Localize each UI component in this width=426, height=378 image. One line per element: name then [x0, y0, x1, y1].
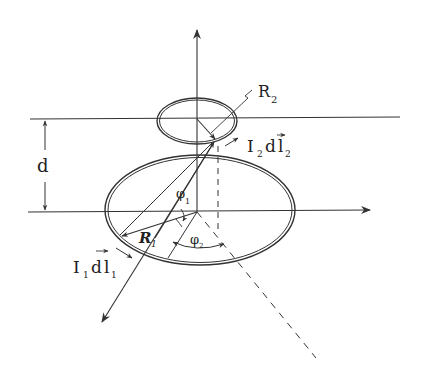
svg-text:l: l — [278, 136, 283, 156]
svg-text:R: R — [258, 82, 271, 101]
label-r2: R 2 — [258, 82, 277, 105]
two-loop-diagram: d R 2 I 2 d l 2 I 1 d l 1 R 1 φ 1 φ 2 — [0, 0, 426, 378]
line-center-to-upper — [120, 143, 212, 235]
label-i2-dl2: I 2 d l 2 — [247, 135, 291, 159]
svg-text:I: I — [247, 136, 254, 156]
svg-text:R: R — [138, 229, 151, 247]
svg-text:I: I — [73, 257, 80, 277]
svg-text:1: 1 — [151, 239, 157, 249]
dashed-diagonal — [197, 212, 316, 358]
label-i1-dl1: I 1 d l 1 — [73, 251, 117, 280]
svg-text:l: l — [104, 257, 109, 277]
label-d: d — [37, 155, 49, 176]
svg-text:d: d — [265, 136, 276, 156]
svg-text:2: 2 — [271, 94, 277, 105]
horizontal-axis — [28, 210, 370, 212]
small-angle-arc — [176, 219, 182, 227]
svg-text:φ: φ — [190, 232, 199, 247]
svg-text:2: 2 — [285, 149, 291, 159]
svg-text:2: 2 — [257, 149, 263, 159]
svg-text:1: 1 — [185, 197, 190, 206]
svg-text:1: 1 — [111, 270, 117, 280]
i1-direction-arrow — [116, 248, 132, 258]
label-phi1: φ 1 — [176, 186, 190, 206]
svg-text:φ: φ — [176, 186, 185, 201]
r2-leader-line — [211, 90, 252, 133]
svg-text:1: 1 — [83, 270, 89, 280]
i2-direction-arrow — [225, 138, 238, 146]
radius-r1-line — [122, 212, 197, 236]
svg-text:d: d — [91, 257, 102, 277]
upper-plane-line — [30, 117, 400, 119]
radius-r2-line — [197, 119, 215, 139]
svg-text:2: 2 — [199, 242, 203, 250]
label-r1: R 1 — [138, 229, 157, 249]
